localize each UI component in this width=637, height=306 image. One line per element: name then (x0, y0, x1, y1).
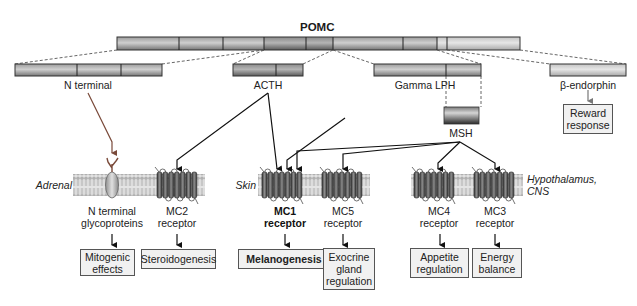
label-skin: Skin (232, 179, 256, 191)
arrow-acth-mc2 (177, 93, 268, 169)
fragment-bar-gamma-lph (374, 64, 481, 76)
arrow-gammalph-mc1 (287, 118, 345, 169)
effect-melanogenesis: Melanogenesis (238, 249, 330, 269)
label-adrenal: Adrenal (30, 179, 72, 191)
receptor-mc1-icon (260, 167, 303, 204)
arrow-msh-mc3 (460, 142, 495, 169)
effect-energy: Energy balance (472, 248, 522, 278)
receptor-mc2-icon (155, 167, 198, 204)
pomc-bar (117, 37, 520, 50)
fragment-bar-msh (444, 107, 479, 124)
label-gamma-lph: Gamma LPH (385, 79, 465, 91)
label-acth: ACTH (238, 79, 298, 91)
receptor-mc5-icon (320, 167, 363, 204)
arrow-acth-mc1 (268, 93, 277, 169)
fragment-bar-beta-endorphin (550, 64, 626, 76)
label-beta-endorphin: β-endorphin (548, 79, 628, 91)
arrow-msh-mc1 (297, 142, 460, 169)
effect-steroidogenesis: Steroidogenesis (141, 249, 216, 269)
fragment-bar-acth (233, 64, 303, 76)
effect-appetite: Appetite regulation (410, 248, 469, 278)
label-mc1-receptor: MC1 receptor (258, 205, 312, 229)
receptor-mc3-icon (472, 167, 515, 204)
effect-mitogenic: Mitogenic effects (80, 249, 135, 276)
label-hypothalamus: Hypothalamus, CNS (527, 173, 607, 197)
pomc-diagram: POMC N terminal ACTH Gamma LPH β-endorph… (0, 0, 637, 306)
arrow-msh-mc5 (343, 142, 460, 169)
label-mc5-receptor: MC5 receptor (318, 205, 368, 229)
diagram-title: POMC (300, 21, 335, 33)
effect-reward: Reward response (563, 104, 613, 134)
label-mc2-receptor: MC2 receptor (152, 205, 202, 229)
glycoprotein-icon (106, 158, 119, 198)
fragment-bar-n-terminal (15, 64, 162, 76)
arrow-msh-mc4 (438, 142, 460, 169)
effect-exocrine: Exocrine gland regulation (323, 248, 375, 290)
receptor-mc4-icon (412, 167, 455, 204)
label-mc4-receptor: MC4 receptor (414, 205, 464, 229)
label-msh: MSH (436, 127, 486, 139)
arrow-n-terminal (88, 93, 112, 153)
label-n-terminal: N terminal (48, 79, 128, 91)
label-mc3-receptor: MC3 receptor (470, 205, 520, 229)
label-n-terminal-glycoproteins: N terminal glycoproteins (72, 205, 152, 229)
